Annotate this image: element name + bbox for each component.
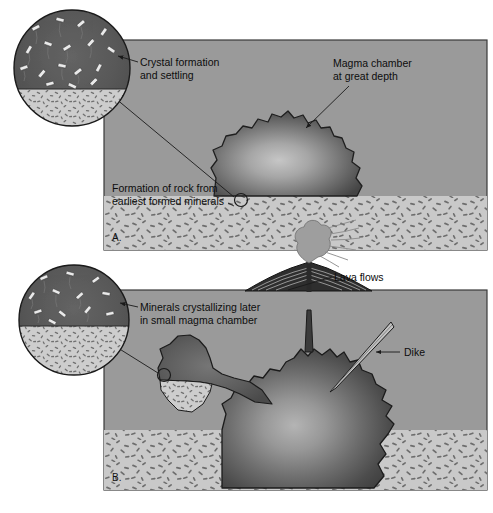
panel-b: Lava flows Dike B.	[18, 220, 487, 490]
panel-b-upper-conduit	[307, 262, 312, 292]
label-dike-text: Dike	[404, 346, 425, 358]
label-minerals-later: Minerals crystallizing later in small ma…	[120, 301, 261, 326]
figure-canvas: Magma chamber at great depth Formation o…	[0, 0, 493, 513]
label-minerals-later-line2: in small magma chamber	[140, 314, 258, 326]
label-rock-formation-line2: earliest formed minerals	[112, 195, 224, 207]
label-crystal-formation-line2: and settling	[140, 69, 194, 81]
label-magma-chamber-line2: at great depth	[333, 70, 398, 82]
label-lava-flows-text: Lava flows	[334, 271, 384, 283]
panel-b-volcanic-conduit	[305, 310, 313, 352]
panel-b-letter: B.	[112, 472, 121, 483]
label-crystal-formation-line1: Crystal formation	[140, 56, 220, 68]
igneous-rock-formation-figure: Magma chamber at great depth Formation o…	[0, 0, 493, 513]
panel-a: Magma chamber at great depth Formation o…	[14, 10, 487, 250]
label-minerals-later-line1: Minerals crystallizing later	[140, 301, 261, 313]
label-rock-formation-line1: Formation of rock from	[112, 182, 218, 194]
panel-a-letter: A.	[112, 232, 121, 243]
label-magma-chamber-line1: Magma chamber	[333, 57, 412, 69]
label-rock-formation: Formation of rock from earliest formed m…	[112, 182, 234, 207]
